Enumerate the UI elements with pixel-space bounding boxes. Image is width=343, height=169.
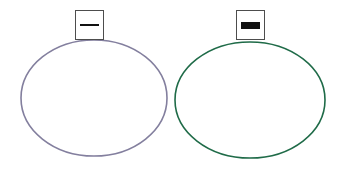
filled-bar-icon xyxy=(241,22,260,29)
diagram-canvas xyxy=(0,0,343,169)
right-icon-box xyxy=(236,10,265,40)
right-ellipse xyxy=(175,42,325,158)
ellipses-svg xyxy=(0,0,343,169)
minus-bar-icon xyxy=(80,24,99,26)
shapes-layer xyxy=(0,0,343,169)
left-ellipse xyxy=(21,40,167,156)
left-icon-box xyxy=(75,10,104,40)
